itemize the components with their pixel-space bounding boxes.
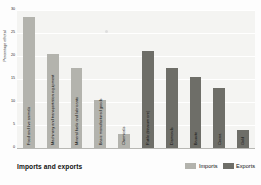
x-tick-label: Chemicals bbox=[121, 127, 126, 145]
gridline bbox=[17, 33, 255, 34]
x-tick-label: Machinery and transportation equipment bbox=[50, 75, 55, 145]
y-tick-label: 10 bbox=[6, 100, 15, 104]
legend-label-imports: Imports bbox=[199, 163, 218, 169]
legend-label-exports: Exports bbox=[236, 163, 255, 169]
y-tick-label: 30 bbox=[6, 8, 15, 12]
legend-item-exports: Exports bbox=[223, 163, 255, 169]
chart-legend: Imports Exports bbox=[185, 163, 255, 169]
x-axis-line bbox=[17, 148, 255, 149]
image-speck bbox=[105, 30, 108, 33]
legend-swatch-imports bbox=[185, 163, 196, 169]
chart-figure: Food and live animalsMachinery and trans… bbox=[0, 0, 261, 185]
y-tick-label: 0 bbox=[6, 146, 15, 150]
legend-swatch-exports bbox=[223, 163, 234, 169]
y-tick-label: 5 bbox=[6, 123, 15, 127]
x-tick-label: Diamonds bbox=[169, 127, 174, 145]
x-tick-label: Rutile (titanium ore) bbox=[145, 111, 150, 145]
x-tick-label: Basic manufactured goods bbox=[98, 98, 103, 145]
x-tick-label: Mineral fuels and lubricants bbox=[74, 97, 79, 145]
x-tick-label: Gold bbox=[240, 137, 245, 145]
chart-caption: Imports and exports bbox=[17, 163, 82, 170]
x-tick-label: Food and live animals bbox=[26, 107, 31, 145]
gridline bbox=[17, 10, 255, 11]
y-axis-title: Percentage of total bbox=[3, 7, 7, 85]
y-tick-label: 25 bbox=[6, 31, 15, 35]
x-tick-label: Bauxite bbox=[193, 132, 198, 145]
plot-area: Food and live animalsMachinery and trans… bbox=[17, 10, 255, 148]
legend-item-imports: Imports bbox=[185, 163, 217, 169]
y-tick-label: 15 bbox=[6, 77, 15, 81]
x-tick-label: Cocoa bbox=[217, 134, 222, 145]
y-tick-label: 20 bbox=[6, 54, 15, 58]
